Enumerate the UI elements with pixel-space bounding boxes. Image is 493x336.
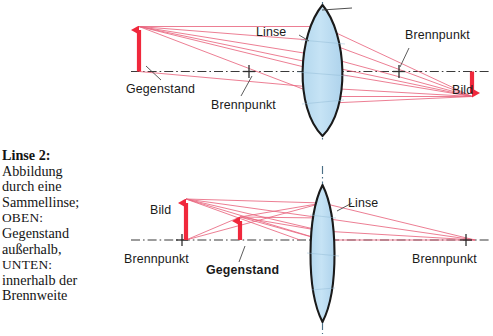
upper-label-object: Gegenstand bbox=[126, 82, 195, 96]
caption-line-3: Sammellinse; bbox=[2, 195, 120, 211]
caption-lower-line-2: Brennweite bbox=[2, 288, 120, 304]
caption-upper-line-1: Gegenstand bbox=[2, 226, 120, 242]
upper-label-focal-left: Brennpunkt bbox=[211, 98, 276, 112]
caption-line-1: Abbildung bbox=[2, 164, 120, 180]
lower-diagram-group bbox=[131, 166, 489, 334]
figure-page: Linse 2: Abbildung durch eine Sammellins… bbox=[0, 0, 493, 336]
lower-label-object: Gegenstand bbox=[206, 263, 279, 277]
caption-marker-upper: OBEN: bbox=[2, 210, 120, 226]
upper-lens-shape bbox=[303, 5, 343, 136]
caption-upper-line-2: außerhalb, bbox=[2, 242, 120, 258]
caption-title: Linse 2: bbox=[2, 148, 120, 164]
lower-label-image: Bild bbox=[150, 203, 171, 217]
lower-label-lens: Linse bbox=[348, 196, 378, 210]
upper-label-lens: Linse bbox=[256, 25, 286, 39]
upper-label-focal-right: Brennpunkt bbox=[405, 28, 470, 42]
lower-label-focal-left: Brennpunkt bbox=[124, 252, 189, 266]
caption-line-2: durch eine bbox=[2, 179, 120, 195]
upper-diagram-group bbox=[131, 2, 489, 141]
lower-label-focal-right: Brennpunkt bbox=[412, 252, 477, 266]
caption-marker-lower: UNTEN: bbox=[2, 257, 120, 273]
figure-caption: Linse 2: Abbildung durch eine Sammellins… bbox=[2, 148, 120, 304]
caption-lower-line-1: innerhalb der bbox=[2, 273, 120, 289]
upper-label-image: Bild bbox=[452, 83, 473, 97]
